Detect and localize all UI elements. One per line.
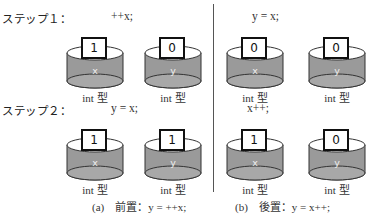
type-label: int 型 (65, 181, 125, 197)
prefix-step1-code: ++x; (111, 10, 133, 22)
prefix-caption: (a) 前置：y = ++x; (92, 198, 186, 214)
variable-x-cylinder: 0 x (225, 37, 285, 89)
variable-name: x (65, 65, 125, 76)
variable-y-cylinder: 0 y (143, 37, 203, 89)
variable-name: x (225, 65, 285, 76)
panel-divider (213, 4, 214, 192)
value-box: 1 (81, 129, 107, 151)
value-box: 0 (323, 37, 349, 59)
type-label: int 型 (225, 181, 285, 197)
step-1-label: ステップ１： (2, 10, 71, 26)
value-box: 0 (159, 37, 185, 59)
step-2-label: ステップ２： (2, 102, 71, 118)
type-label: int 型 (307, 181, 367, 197)
value-box: 1 (159, 129, 185, 151)
variable-name: x (65, 157, 125, 168)
variable-name: y (143, 157, 203, 168)
postfix-step1-code: y = x; (252, 10, 279, 22)
value-box: 0 (323, 129, 349, 151)
variable-name: x (225, 157, 285, 168)
variable-y-cylinder: 0 y (307, 37, 367, 89)
value-box: 0 (241, 37, 267, 59)
variable-name: y (307, 157, 367, 168)
variable-x-cylinder: 1 x (65, 37, 125, 89)
type-label: int 型 (143, 89, 203, 105)
variable-name: y (143, 65, 203, 76)
value-box: 1 (241, 129, 267, 151)
variable-y-cylinder: 0 y (307, 129, 367, 181)
type-label: int 型 (307, 89, 367, 105)
type-label: int 型 (225, 89, 285, 105)
value-box: 1 (81, 37, 107, 59)
variable-y-cylinder: 1 y (143, 129, 203, 181)
variable-name: y (307, 65, 367, 76)
type-label: int 型 (143, 181, 203, 197)
postfix-caption: (b) 後置：y = x++; (235, 198, 330, 214)
variable-x-cylinder: 1 x (65, 129, 125, 181)
variable-x-cylinder: 1 x (225, 129, 285, 181)
type-label: int 型 (65, 89, 125, 105)
